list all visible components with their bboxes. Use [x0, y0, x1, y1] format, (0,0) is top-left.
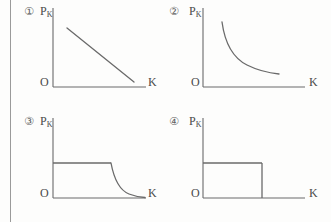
- panel-3: ③ PK O K: [0, 110, 166, 222]
- panel-3-curve-decay: [111, 163, 145, 198]
- panel-2-x-axis-label: K: [309, 76, 318, 88]
- panel-3-x-axis-label: K: [148, 187, 157, 199]
- figure-sheet: ① PK O K ② PK O K ③ PK O K: [0, 0, 331, 222]
- panel-4-x-axis-label: K: [309, 187, 318, 199]
- panel-1-x-axis-label: K: [148, 76, 157, 88]
- panel-4-marker: ④: [169, 116, 179, 127]
- panel-4: ④ PK O K: [165, 110, 331, 222]
- panel-2: ② PK O K: [165, 0, 331, 111]
- panel-2-origin-label: O: [191, 76, 200, 88]
- panel-1-y-axis-label: PK: [40, 5, 52, 17]
- panel-2-y-axis-label-main: P: [189, 4, 196, 18]
- panel-2-y-axis-label-sub: K: [196, 10, 202, 19]
- panel-3-y-axis-label-sub: K: [47, 120, 53, 129]
- panel-3-y-axis-label: PK: [40, 115, 52, 127]
- panel-3-y-axis-label-main: P: [40, 114, 47, 128]
- panel-1-curve-downward-line: [67, 28, 134, 82]
- panel-4-y-axis-label: PK: [189, 115, 201, 127]
- panel-1-y-axis-label-main: P: [40, 4, 47, 18]
- panel-1-origin-label: O: [40, 76, 49, 88]
- panel-2-y-axis-label: PK: [189, 5, 201, 17]
- panel-4-y-axis-label-main: P: [189, 114, 196, 128]
- panel-1-marker: ①: [24, 6, 34, 17]
- panel-4-y-axis-label-sub: K: [196, 120, 202, 129]
- panel-1-y-axis-label-sub: K: [47, 10, 53, 19]
- panel-3-marker: ③: [24, 116, 34, 127]
- panel-2-curve-hyperbola: [222, 22, 279, 74]
- panel-2-marker: ②: [169, 6, 179, 17]
- panel-4-origin-label: O: [191, 187, 200, 199]
- panel-1: ① PK O K: [0, 0, 166, 111]
- panel-3-origin-label: O: [40, 187, 49, 199]
